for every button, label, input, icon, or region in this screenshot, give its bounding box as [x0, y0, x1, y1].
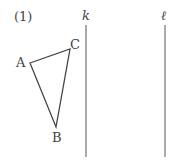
diagram-canvas: (1) k ℓ A C B: [0, 0, 183, 166]
vertex-c-label: C: [70, 37, 80, 52]
triangle-abc: [30, 49, 70, 127]
line-k-label: k: [82, 8, 90, 23]
vertex-b-label: B: [52, 130, 62, 145]
problem-number: (1): [14, 9, 32, 24]
line-l-label: ℓ: [161, 8, 167, 23]
vertex-a-label: A: [15, 55, 26, 70]
